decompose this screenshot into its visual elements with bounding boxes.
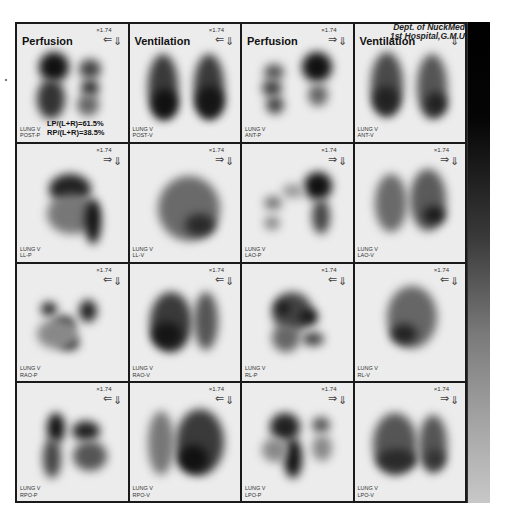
- lung-ratio: LP/(L+R)=61.5% RP/(L+R)=38.5%: [47, 119, 105, 137]
- ratio-left: LP/(L+R)=61.5%: [47, 119, 105, 128]
- cell-title: Perfusion: [22, 35, 73, 47]
- cell-ant-perfusion[interactable]: Perfusion ×1.74 ⇒ ⇓ LUNG VANT-P: [242, 24, 353, 142]
- view-label: LUNG VLPO-V: [358, 485, 378, 498]
- cell-lpo-ventilation[interactable]: ×1.74 ⇒ ⇓ LUNG VLPO-V: [355, 383, 466, 501]
- scale-factor: ×1.74: [96, 147, 111, 153]
- view-label: LUNG VLPO-P: [245, 485, 265, 498]
- view-label: LUNG VRAO-P: [20, 365, 40, 378]
- cell-title: Ventilation: [135, 35, 191, 47]
- scan-grid: Perfusion ×1.74 ⇐ ⇓ LP/(L+R)=61.5% RP/(L…: [15, 22, 467, 503]
- orientation-arrow-right-icon: ⇒: [440, 393, 449, 404]
- view-label: LUNG VANT-V: [358, 126, 378, 139]
- ratio-right: RP/(L+R)=38.5%: [47, 128, 105, 137]
- orientation-arrow-right-icon: ⇒: [215, 154, 224, 165]
- view-label: LUNG VRPO-V: [133, 485, 153, 498]
- cell-ll-ventilation[interactable]: ×1.74 ⇒ ⇓ LUNG VLL-V: [130, 144, 241, 262]
- cell-ant-ventilation[interactable]: Ventilation ⇓ LUNG VANT-V: [355, 24, 466, 142]
- cell-rl-ventilation[interactable]: ×1.74 ⇐ ⇓ LUNG VRL-V: [355, 264, 466, 382]
- cell-lao-perfusion[interactable]: ×1.74 ⇒ ⇓ LUNG VLAO-P: [242, 144, 353, 262]
- orientation-arrow-down-icon: ⇓: [225, 156, 234, 167]
- orientation-arrow-left-icon: ⇐: [103, 34, 112, 45]
- orientation-arrow-down-icon: ⇓: [113, 36, 122, 47]
- scale-factor: ×1.74: [96, 267, 111, 273]
- orientation-arrow-down-icon: ⇓: [338, 36, 347, 47]
- scale-factor: ×1.74: [209, 147, 224, 153]
- orientation-arrow-down-icon: ⇓: [113, 276, 122, 287]
- scale-factor: ×1.74: [209, 267, 224, 273]
- stray-dot: [5, 79, 7, 81]
- orientation-arrow-down-icon: ⇓: [225, 276, 234, 287]
- scale-factor: ×1.74: [434, 147, 449, 153]
- orientation-arrow-down-icon: ⇓: [113, 156, 122, 167]
- scale-factor: ×1.74: [321, 147, 336, 153]
- cell-rao-perfusion[interactable]: ×1.74 ⇐ ⇓ LUNG VRAO-P: [17, 264, 128, 382]
- orientation-arrow-right-icon: ⇒: [103, 154, 112, 165]
- orientation-arrow-left-icon: ⇐: [103, 274, 112, 285]
- view-label: LUNG VLAO-V: [358, 246, 378, 259]
- intensity-colorbar: [467, 22, 490, 503]
- orientation-arrow-right-icon: ⇒: [328, 154, 337, 165]
- scale-factor: ×1.74: [321, 267, 336, 273]
- orientation-arrow-down-icon: ⇓: [450, 395, 459, 406]
- cell-rao-ventilation[interactable]: ×1.74 ⇐ ⇓ LUNG VRAO-V: [130, 264, 241, 382]
- cell-rl-perfusion[interactable]: ×1.74 ⇐ ⇓ LUNG VRL-P: [242, 264, 353, 382]
- orientation-arrow-down-icon: ⇓: [338, 156, 347, 167]
- cell-title: Perfusion: [247, 35, 298, 47]
- institution-header: Dept. of NuckMed 1st Hospital,G.M.U: [390, 23, 465, 41]
- view-label: LUNG VRL-V: [358, 365, 378, 378]
- cell-rpo-perfusion[interactable]: ×1.74 ⇐ ⇓ LUNG VRPO-P: [17, 383, 128, 501]
- orientation-arrow-down-icon: ⇓: [225, 36, 234, 47]
- view-label: LUNG VPOST-V: [133, 126, 153, 139]
- orientation-arrow-left-icon: ⇐: [328, 274, 337, 285]
- orientation-arrow-left-icon: ⇐: [103, 393, 112, 404]
- orientation-arrow-down-icon: ⇓: [225, 395, 234, 406]
- orientation-arrow-left-icon: ⇐: [215, 393, 224, 404]
- orientation-arrow-left-icon: ⇐: [440, 274, 449, 285]
- view-label: LUNG VLL-P: [20, 246, 40, 259]
- cell-lpo-perfusion[interactable]: ×1.74 ⇒ ⇓ LUNG VLPO-P: [242, 383, 353, 501]
- cell-rpo-ventilation[interactable]: ×1.74 ⇐ ⇓ LUNG VRPO-V: [130, 383, 241, 501]
- orientation-arrow-down-icon: ⇓: [450, 276, 459, 287]
- view-label: LUNG VRAO-V: [133, 365, 153, 378]
- view-label: LUNG VPOST-P: [20, 126, 40, 139]
- view-label: LUNG VLAO-P: [245, 246, 265, 259]
- orientation-arrow-down-icon: ⇓: [450, 156, 459, 167]
- view-label: LUNG VRL-P: [245, 365, 265, 378]
- cell-lao-ventilation[interactable]: ×1.74 ⇒ ⇓ LUNG VLAO-V: [355, 144, 466, 262]
- view-label: LUNG VLL-V: [133, 246, 153, 259]
- cell-post-perfusion[interactable]: Perfusion ×1.74 ⇐ ⇓ LP/(L+R)=61.5% RP/(L…: [17, 24, 128, 142]
- orientation-arrow-right-icon: ⇒: [328, 393, 337, 404]
- orientation-arrow-left-icon: ⇐: [215, 274, 224, 285]
- cell-ll-perfusion[interactable]: ×1.74 ⇒ ⇓ LUNG VLL-P: [17, 144, 128, 262]
- orientation-arrow-down-icon: ⇓: [113, 395, 122, 406]
- orientation-arrow-left-icon: ⇐: [215, 34, 224, 45]
- scale-factor: ×1.74: [434, 267, 449, 273]
- orientation-arrow-right-icon: ⇒: [440, 154, 449, 165]
- orientation-arrow-down-icon: ⇓: [338, 276, 347, 287]
- orientation-arrow-right-icon: ⇒: [328, 34, 337, 45]
- cell-post-ventilation[interactable]: Ventilation ×1.74 ⇐ ⇓ LUNG VPOST-V: [130, 24, 241, 142]
- view-label: LUNG VANT-P: [245, 126, 265, 139]
- view-label: LUNG VRPO-P: [20, 485, 40, 498]
- orientation-arrow-down-icon: ⇓: [338, 395, 347, 406]
- hospital-label: 1st Hospital,G.M.U: [390, 32, 465, 41]
